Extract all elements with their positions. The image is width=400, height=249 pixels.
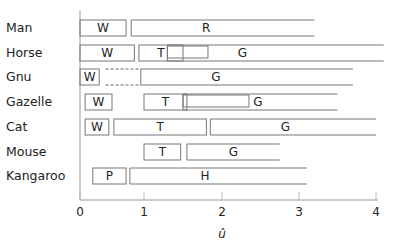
segment-label: T — [155, 120, 164, 134]
x-ticks: 01234 — [76, 192, 380, 219]
chart-row-mouse: MouseTG — [6, 144, 280, 160]
gantt-chart: 01234 ManWRHorseWTGGnuWGGazelleWTGCatWTG… — [0, 0, 400, 249]
x-axis-label: û — [218, 227, 226, 241]
chart-row-gnu: GnuWG — [6, 69, 353, 85]
row-label: Horse — [6, 45, 43, 60]
segment-label: T — [156, 46, 165, 60]
chart-rows: ManWRHorseWTGGnuWGGazelleWTGCatWTGMouseT… — [6, 20, 384, 184]
segment-label: T — [158, 145, 167, 159]
row-label: Kangaroo — [6, 168, 65, 183]
x-tick-label: 0 — [76, 205, 84, 219]
chart-row-gazelle: GazelleWTG — [6, 94, 338, 110]
segment-label: T — [161, 95, 170, 109]
row-label: Gazelle — [6, 94, 53, 109]
inner-box — [167, 46, 208, 58]
segment-label: G — [211, 70, 220, 84]
chart-row-kangaroo: KangarooPH — [6, 168, 307, 184]
segment-label: W — [84, 70, 96, 84]
segment-label: W — [101, 46, 113, 60]
segment-label: W — [97, 21, 109, 35]
chart-row-horse: HorseWTG — [6, 45, 384, 61]
segment-label: P — [106, 169, 113, 183]
segment-label: G — [238, 46, 247, 60]
inner-box — [183, 95, 249, 107]
segment-label: G — [229, 145, 238, 159]
segment-label: G — [253, 95, 262, 109]
x-tick-label: 3 — [295, 205, 303, 219]
segment-label: W — [93, 95, 105, 109]
row-label: Mouse — [6, 144, 47, 159]
row-label: Man — [6, 20, 32, 35]
segment-label: G — [281, 120, 290, 134]
row-label: Cat — [6, 119, 27, 134]
x-tick-label: 2 — [218, 205, 226, 219]
row-label: Gnu — [6, 69, 32, 84]
x-tick-label: 1 — [140, 205, 148, 219]
segment-label: W — [91, 120, 103, 134]
segment-label: H — [200, 169, 209, 183]
segment-label: R — [202, 21, 210, 35]
chart-row-cat: CatWTG — [6, 119, 376, 135]
chart-row-man: ManWR — [6, 20, 314, 36]
x-tick-label: 4 — [372, 205, 380, 219]
